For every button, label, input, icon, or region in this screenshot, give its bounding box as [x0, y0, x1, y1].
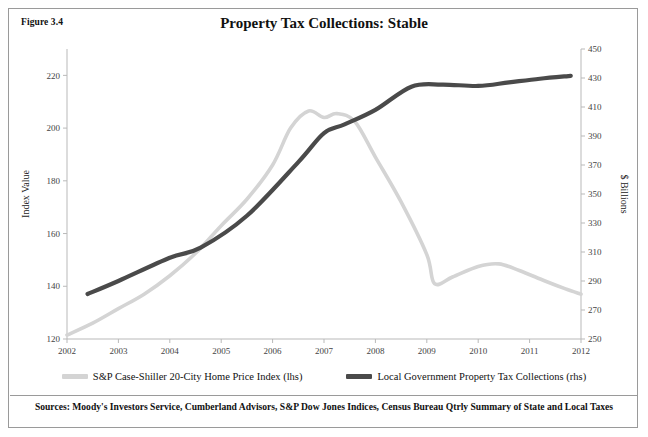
y2-tick-label: 270: [588, 305, 602, 315]
y-tick-label: 180: [47, 176, 61, 186]
x-tick-label: 2012: [572, 346, 590, 356]
y2-tick-label: 390: [588, 131, 602, 141]
y2-tick-label: 330: [588, 218, 602, 228]
y2-tick-label: 250: [588, 334, 602, 344]
y2-tick-label: 290: [588, 276, 602, 286]
y2-tick-label: 350: [588, 189, 602, 199]
x-tick-label: 2007: [315, 346, 334, 356]
y2-tick-label: 430: [588, 73, 602, 83]
chart-plot-area: 1201401601802002202502702903103303503703…: [9, 31, 639, 361]
legend-swatch-property-tax: [346, 374, 372, 379]
legend-label-case-shiller: S&P Case-Shiller 20-City Home Price Inde…: [93, 371, 303, 382]
x-tick-label: 2006: [264, 346, 283, 356]
y2-tick-label: 310: [588, 247, 602, 257]
y2-tick-label: 450: [588, 44, 602, 54]
x-tick-label: 2003: [109, 346, 128, 356]
source-divider: [10, 395, 638, 396]
line-chart: 1201401601802002202502702903103303503703…: [9, 31, 639, 361]
y-tick-label: 200: [47, 123, 61, 133]
y-tick-label: 140: [47, 281, 61, 291]
x-tick-label: 2011: [521, 346, 539, 356]
legend-label-property-tax: Local Government Property Tax Collection…: [377, 371, 586, 382]
y-tick-label: 120: [47, 334, 61, 344]
x-tick-label: 2008: [366, 346, 385, 356]
x-tick-label: 2009: [418, 346, 437, 356]
series-line-1: [67, 111, 581, 335]
y2-tick-label: 410: [588, 102, 602, 112]
y-tick-label: 220: [47, 71, 61, 81]
y-axis-title: Index Value: [20, 170, 31, 218]
x-tick-label: 2005: [212, 346, 231, 356]
y2-tick-label: 370: [588, 160, 602, 170]
figure-frame: Figure 3.4 Property Tax Collections: Sta…: [8, 8, 638, 428]
x-tick-label: 2002: [58, 346, 76, 356]
legend-item-property-tax: Local Government Property Tax Collection…: [346, 371, 586, 382]
series-line-2: [88, 76, 571, 294]
chart-legend: S&P Case-Shiller 20-City Home Price Inde…: [9, 365, 639, 387]
y2-axis-title: $ Billions: [619, 174, 630, 213]
x-tick-label: 2010: [469, 346, 488, 356]
legend-item-case-shiller: S&P Case-Shiller 20-City Home Price Inde…: [62, 371, 303, 382]
source-note: Sources: Moody's Investors Service, Cumb…: [9, 401, 639, 412]
legend-swatch-case-shiller: [62, 374, 88, 379]
x-tick-label: 2004: [161, 346, 180, 356]
chart-title: Property Tax Collections: Stable: [9, 15, 639, 32]
y-tick-label: 160: [47, 229, 61, 239]
